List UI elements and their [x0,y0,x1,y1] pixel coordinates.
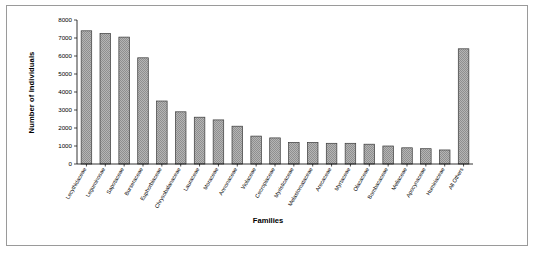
x-axis-category-label: Moraceae [202,167,219,191]
x-axis-category-label: Arecaceae [314,167,332,193]
x-axis-category-label: All Others [447,166,464,190]
bar [251,136,262,164]
bar [326,143,337,164]
bar [119,37,130,164]
x-axis-category-label: Meliaceae [390,167,408,192]
bar [138,58,149,164]
bar [364,144,375,164]
x-axis-category-label: Lauraceae [182,167,200,193]
x-axis-category-label: Myrtaceae [333,167,351,192]
bar-series [81,31,469,164]
bar [81,31,92,164]
bar [289,142,300,164]
y-axis-tick-label: 8000 [58,16,72,23]
bar [307,142,318,164]
bar [402,148,413,164]
bar [421,149,432,164]
bar [232,126,243,164]
bar-chart: 010002000300040005000600070008000 Lecyth… [7,6,529,247]
y-axis-tick-label: 7000 [58,34,72,41]
y-axis-tick-label: 2000 [58,124,72,131]
x-axis-category-label: Annonaceae [218,166,239,196]
x-axis-category-label: Leguminosae [84,167,106,199]
bar [345,143,356,164]
bar [100,34,111,165]
bar [194,117,205,164]
y-axis-tick-label: 3000 [58,106,72,113]
bar [383,146,394,164]
y-axis-tick-label: 6000 [58,52,72,59]
bar [213,120,224,164]
bar [439,150,450,164]
bar [270,138,281,164]
x-axis-category-label: Sapotaceae [105,167,125,195]
x-axis-category-label: Bombacaceae [366,167,389,200]
bar [458,49,469,164]
figure-frame: Number of Individuals Families 010002000… [6,5,528,246]
x-axis-tick-labels: LecythidaceaeLeguminosaeSapotaceaeBurser… [64,164,464,209]
bar [175,112,186,164]
y-axis-tick-label: 0 [69,160,73,167]
chart-plot-area: Number of Individuals Families 010002000… [7,6,529,247]
x-axis-category-label: Burseraceae [123,167,144,197]
x-axis-category-label: Apocynaceae [405,167,427,199]
y-axis-tick-label: 1000 [58,142,72,149]
y-axis-ticks: 010002000300040005000600070008000 [58,16,77,167]
x-axis-category-label: Myristicaceae [273,167,295,199]
y-axis-tick-label: 4000 [58,88,72,95]
x-axis-category-label: Violaceae [240,167,257,191]
x-axis-category-label: Humiriaceae [425,167,446,197]
y-axis-tick-label: 5000 [58,70,72,77]
bar [157,101,168,164]
x-axis-category-label: Olacaceae [352,167,370,193]
